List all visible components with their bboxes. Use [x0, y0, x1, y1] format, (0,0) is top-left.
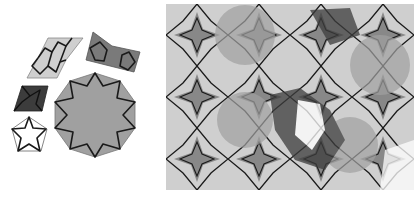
bowtie-tile	[86, 32, 140, 72]
rhombus-tile	[14, 86, 48, 111]
girih-diagram	[0, 0, 420, 201]
tile-set	[12, 32, 140, 157]
decagon-tile	[55, 73, 135, 157]
tiling-pattern	[166, 4, 414, 190]
elongated-hexagon-tile	[27, 38, 83, 78]
pentagon-tile	[12, 117, 47, 151]
